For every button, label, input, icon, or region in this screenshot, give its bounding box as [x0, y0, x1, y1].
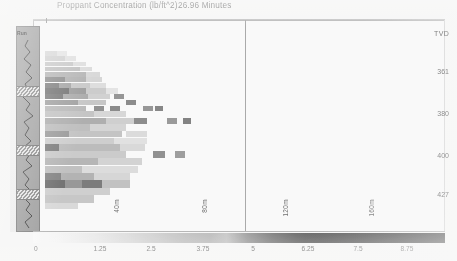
heatmap-cell: [106, 88, 118, 93]
heatmap-cell: [69, 88, 85, 93]
heatmap-cell: [82, 166, 139, 173]
hatch-band-marker: [16, 145, 40, 156]
heatmap-cell: [57, 51, 67, 56]
heatmap-cell: [45, 124, 90, 130]
depth-axis-tick: 361: [437, 68, 449, 75]
heatmap-cell: [69, 131, 122, 137]
heatmap-cell: [78, 100, 106, 105]
depth-axis-header: TVD: [434, 30, 449, 37]
heatmap-cell: [45, 56, 65, 61]
heatmap-cell: [90, 124, 127, 130]
heatmap-cell: [45, 67, 80, 72]
heatmap-cell: [45, 144, 59, 151]
heatmap-cell: [65, 180, 81, 187]
page-title: Proppant Concentration (lb/ft^2): [57, 1, 178, 10]
colorbar-tick: 7.5: [353, 245, 362, 252]
heatmap-cell: [134, 118, 146, 124]
heatmap-cell: [45, 203, 77, 209]
heatmap-cell: [102, 180, 130, 187]
heatmap-cell: [106, 118, 134, 124]
heatmap-cell: [45, 158, 98, 165]
heatmap-cell: [45, 131, 69, 137]
heatmap-cell: [45, 166, 82, 173]
stage-divider-line: [245, 20, 246, 232]
heatmap-cell: [45, 118, 106, 124]
heatmap-cell: [73, 62, 85, 67]
elapsed-time-label: 26.96 Minutes: [178, 1, 231, 10]
heatmap-cell: [45, 106, 86, 111]
heatmap-cell: [45, 83, 59, 88]
heatmap-cell: [175, 151, 185, 158]
depth-axis-tick: 427: [437, 191, 449, 198]
heatmap-cell: [45, 88, 69, 93]
heatmap-cell: [80, 67, 92, 72]
heatmap-cell: [94, 173, 131, 180]
heatmap-cell: [45, 51, 57, 56]
heatmap-cell: [114, 94, 124, 99]
colorbar-tick: 8.75: [401, 245, 414, 252]
heatmap-cell: [86, 88, 106, 93]
heatmap-cell: [59, 83, 71, 88]
heatmap-cell: [45, 173, 61, 180]
depth-axis-tick: 400: [437, 152, 449, 159]
colorbar-tick: 3.75: [197, 245, 210, 252]
heatmap-cell: [126, 100, 136, 105]
heatmap-canvas[interactable]: [41, 22, 244, 230]
heatmap-cell: [86, 72, 100, 77]
heatmap-cell: [45, 180, 65, 187]
heatmap-cell: [167, 118, 177, 124]
heatmap-cell: [45, 195, 94, 202]
stage-label: 120m: [282, 199, 289, 217]
heatmap-cell: [94, 106, 104, 111]
heatmap-cell: [45, 72, 86, 77]
hatch-band-marker: [16, 189, 40, 200]
heatmap-cell: [126, 131, 146, 137]
heatmap-cell: [45, 94, 63, 99]
stage-label: 80m: [201, 199, 208, 213]
heatmap-cell: [153, 151, 165, 158]
heatmap-cell: [65, 56, 75, 61]
colorbar-tick: 6.25: [302, 245, 315, 252]
heatmap-cell: [94, 111, 126, 117]
depth-axis-tick: 380: [437, 110, 449, 117]
heatmap-cell: [88, 94, 110, 99]
heatmap-cell: [82, 180, 102, 187]
heatmap-cell: [98, 158, 143, 165]
gamma-ray-curve-icon: [16, 26, 40, 232]
heatmap-cell: [63, 94, 87, 99]
proppant-concentration-figure: Proppant Concentration (lb/ft^2) 26.96 M…: [0, 0, 457, 261]
heatmap-cell: [155, 106, 163, 111]
heatmap-cell: [45, 62, 73, 67]
plot-right-edge: [444, 20, 445, 232]
heatmap-cell: [120, 144, 144, 151]
stage-label: 40m: [113, 199, 120, 213]
colorbar-top-rule: [33, 231, 445, 232]
heatmap-cell: [143, 106, 153, 111]
heatmap-cell: [45, 77, 65, 82]
heatmap-cell: [114, 138, 146, 144]
heatmap-cell: [45, 151, 126, 158]
heatmap-cell: [45, 188, 110, 195]
heatmap-cell: [45, 111, 94, 117]
well-log-track[interactable]: Run: [16, 26, 40, 232]
colorbar-tick: 2.5: [146, 245, 155, 252]
hatch-band-marker: [16, 86, 40, 97]
heatmap-cell: [65, 77, 85, 82]
heatmap-cell: [90, 83, 106, 88]
heatmap-cell: [71, 83, 89, 88]
heatmap-cell: [86, 77, 102, 82]
colorbar-tick: 5: [251, 245, 255, 252]
heatmap-cell: [183, 118, 191, 124]
colorbar-tick: 1.25: [94, 245, 107, 252]
heatmap-cell: [45, 100, 77, 105]
heatmap-cell: [110, 106, 120, 111]
heatmap-cell: [59, 144, 120, 151]
heatmap-cell: [45, 138, 114, 144]
heatmap-cell: [61, 173, 93, 180]
colorbar-tick: 0: [34, 245, 38, 252]
figure-title-bar: Proppant Concentration (lb/ft^2) 26.96 M…: [0, 0, 457, 17]
colorbar[interactable]: [33, 233, 445, 243]
stage-label: 160m: [368, 199, 375, 217]
